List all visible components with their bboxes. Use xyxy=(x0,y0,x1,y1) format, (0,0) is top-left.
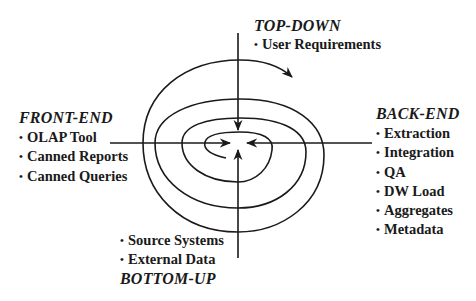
bullet-icon: • xyxy=(254,35,262,54)
list-item: •External Data xyxy=(120,250,224,269)
list-item: •Canned Queries xyxy=(19,167,128,186)
bullet-icon: • xyxy=(19,147,27,166)
list-item: •Aggregates xyxy=(376,201,454,220)
list-item: •OLAP Tool xyxy=(19,128,128,147)
bullet-icon: • xyxy=(376,182,384,201)
list-item: •User Requirements xyxy=(254,35,381,54)
bullet-icon: • xyxy=(376,124,384,143)
front-end-heading: FRONT-END xyxy=(19,109,113,127)
spiral-path xyxy=(143,60,324,232)
bullet-icon: • xyxy=(376,201,384,220)
bullet-icon: • xyxy=(19,128,27,147)
list-item: •Integration xyxy=(376,143,454,162)
list-item: •Extraction xyxy=(376,124,454,143)
list-item: •QA xyxy=(376,163,454,182)
list-item: •DW Load xyxy=(376,182,454,201)
bullet-icon: • xyxy=(376,143,384,162)
bottom-up-list: •Source Systems •External Data xyxy=(120,231,224,270)
list-item: •Canned Reports xyxy=(19,147,128,166)
bullet-icon: • xyxy=(19,167,27,186)
list-item: •Source Systems xyxy=(120,231,224,250)
top-down-list: •User Requirements xyxy=(254,35,381,54)
top-down-heading: TOP-DOWN xyxy=(254,17,341,35)
bullet-icon: • xyxy=(376,163,384,182)
bullet-icon: • xyxy=(120,250,128,269)
back-end-list: •Extraction •Integration •QA •DW Load •A… xyxy=(376,124,454,240)
bullet-icon: • xyxy=(376,220,384,239)
list-item: •Metadata xyxy=(376,220,454,239)
back-end-heading: BACK-END xyxy=(376,105,459,123)
bullet-icon: • xyxy=(120,231,128,250)
bottom-up-heading: BOTTOM-UP xyxy=(120,270,216,288)
front-end-list: •OLAP Tool •Canned Reports •Canned Queri… xyxy=(19,128,128,186)
